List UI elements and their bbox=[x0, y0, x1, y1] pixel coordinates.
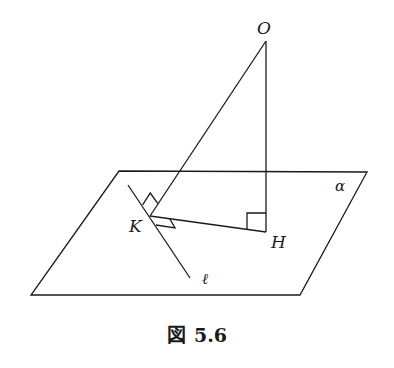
caption-number: 5.6 bbox=[194, 324, 227, 346]
segment-KH bbox=[150, 216, 266, 232]
plane-alpha bbox=[31, 171, 367, 295]
figure-caption: 図5.6 bbox=[0, 320, 394, 347]
label-H: H bbox=[270, 232, 287, 252]
right-angle-mark-K-upper bbox=[143, 193, 158, 205]
perpendicular-diagram: O K H α ℓ bbox=[0, 0, 394, 368]
right-angle-mark-H bbox=[247, 213, 266, 229]
label-alpha: α bbox=[335, 177, 345, 195]
right-angle-mark-K-lower bbox=[156, 219, 175, 228]
segment-OK bbox=[150, 41, 266, 216]
caption-prefix: 図 bbox=[167, 320, 186, 347]
label-K: K bbox=[128, 216, 143, 236]
label-ell: ℓ bbox=[202, 270, 208, 288]
label-O: O bbox=[257, 18, 271, 38]
